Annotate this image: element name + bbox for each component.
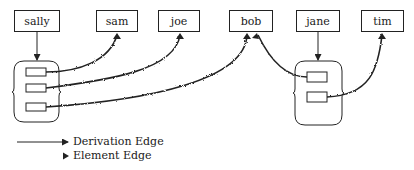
node-tim: tim <box>361 10 404 32</box>
element-edge-sally-bob <box>46 35 247 107</box>
node-label: jane <box>306 15 330 28</box>
node-label: sam <box>106 15 129 28</box>
node-sally: sally <box>14 10 60 32</box>
jane-element-1 <box>307 72 327 82</box>
node-joe: joe <box>158 10 200 32</box>
node-sam: sam <box>96 10 138 32</box>
node-label: tim <box>373 15 391 28</box>
element-edge-sally-sam <box>46 35 117 72</box>
node-bob: bob <box>229 10 273 32</box>
element-edge-bob-jane <box>258 35 307 77</box>
node-label: joe <box>171 15 188 28</box>
legend-derivation-label: Derivation Edge <box>73 136 164 148</box>
node-label: bob <box>241 15 262 28</box>
sally-element-1 <box>26 68 46 76</box>
node-label: sally <box>24 15 49 28</box>
jane-element-2 <box>307 92 327 102</box>
sally-element-2 <box>26 84 46 92</box>
sally-element-group <box>12 61 61 122</box>
diagram-canvas <box>0 0 414 170</box>
sally-element-3 <box>26 103 46 111</box>
jane-element-group <box>293 61 344 125</box>
legend-element-label: Element Edge <box>73 150 152 162</box>
node-jane: jane <box>296 10 340 32</box>
element-edge-jane-tim <box>327 35 382 97</box>
